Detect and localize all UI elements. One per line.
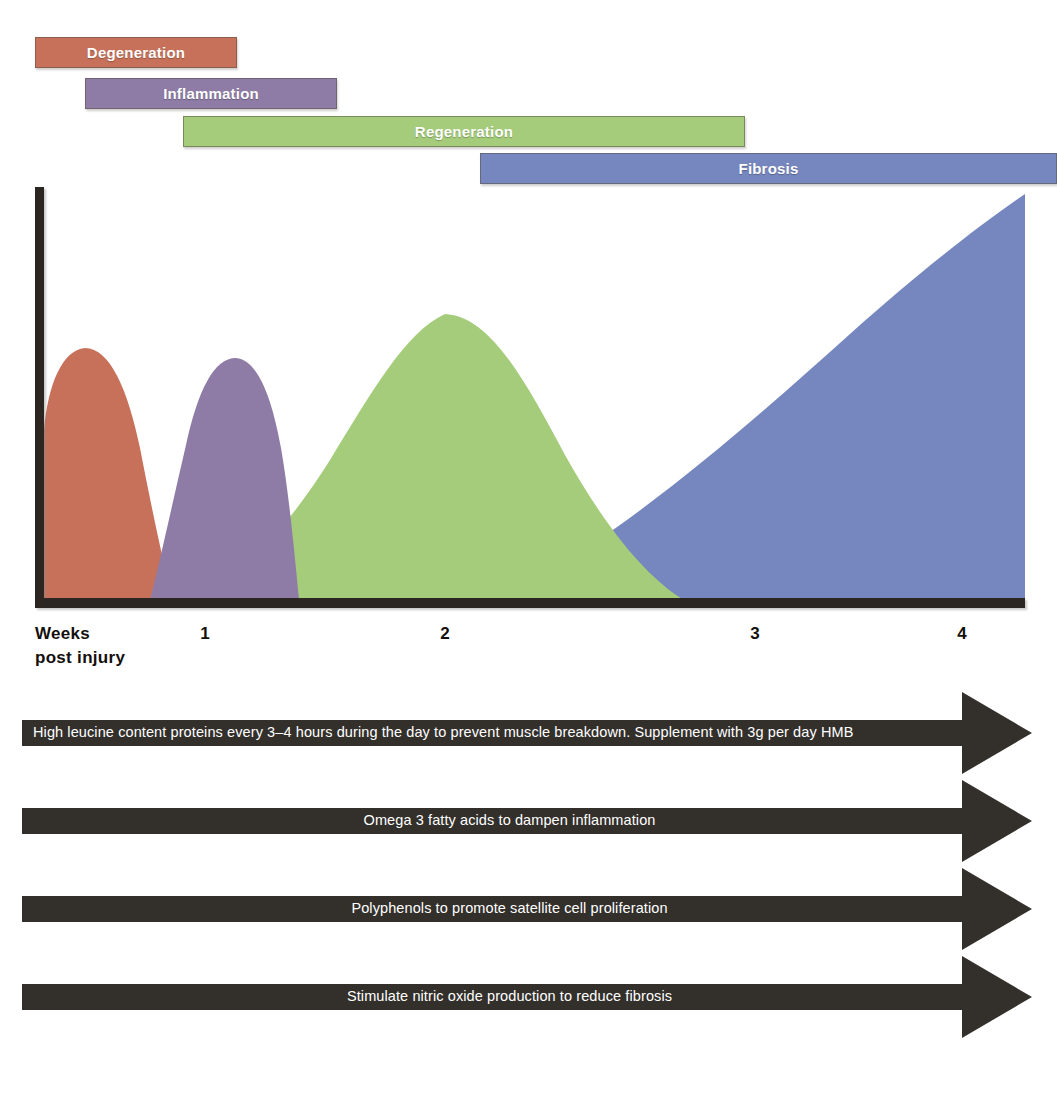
curve-degeneration: [44, 348, 175, 608]
recommendation-arrow-nitric-oxide: Stimulate nitric oxide production to red…: [22, 954, 1034, 1040]
phase-bar-inflammation: Inflammation: [85, 78, 337, 109]
phase-bar-fibrosis-label: Fibrosis: [739, 160, 799, 177]
y-axis: [35, 187, 44, 601]
figure-root: Degeneration Inflammation Regeneration F…: [0, 0, 1057, 1094]
x-tick-1: 1: [190, 624, 220, 644]
curve-inflammation: [148, 358, 300, 608]
x-tick-3: 3: [740, 624, 770, 644]
arrow-shape-icon: [22, 866, 1034, 952]
x-axis: [35, 598, 1025, 608]
phase-bar-regeneration-label: Regeneration: [415, 123, 513, 140]
x-tick-2: 2: [430, 624, 460, 644]
phase-bar-inflammation-label: Inflammation: [163, 85, 259, 102]
arrow-shape-icon: [22, 778, 1034, 864]
phase-bar-degeneration: Degeneration: [35, 37, 237, 68]
axis-caption-post-injury: post injury: [35, 648, 125, 668]
phase-curves: [0, 180, 1057, 620]
phase-bar-degeneration-label: Degeneration: [87, 44, 185, 61]
axis-caption-weeks: Weeks: [35, 624, 90, 644]
phase-bar-regeneration: Regeneration: [183, 116, 745, 147]
healing-phase-chart: [0, 180, 1057, 620]
recommendation-arrow-omega3: Omega 3 fatty acids to dampen inflammati…: [22, 778, 1034, 864]
arrow-shape-icon: [22, 690, 1034, 776]
arrow-shape-icon: [22, 954, 1034, 1040]
recommendation-arrow-polyphenols: Polyphenols to promote satellite cell pr…: [22, 866, 1034, 952]
recommendation-arrow-protein: High leucine content proteins every 3–4 …: [22, 690, 1034, 776]
x-tick-4: 4: [947, 624, 977, 644]
